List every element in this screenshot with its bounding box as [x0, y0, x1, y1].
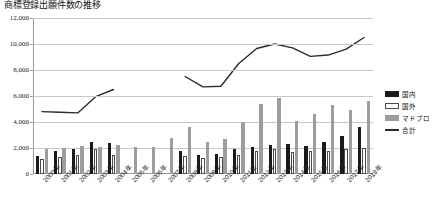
- y-axis-tick-label: 0: [26, 170, 30, 178]
- legend-label: 国内: [402, 89, 416, 99]
- bar-group: [105, 18, 123, 174]
- bar-group: [337, 18, 355, 174]
- y-axis-labels: 02,0004,0006,0008,00010,00012,000: [0, 18, 31, 174]
- bar-group: [51, 18, 69, 174]
- legend-swatch-line: [385, 127, 399, 133]
- bar-group: [355, 18, 373, 174]
- bar-group: [176, 18, 194, 174]
- legend-swatch-gray: [385, 115, 399, 121]
- legend-item[interactable]: 国外: [385, 100, 441, 112]
- bar-group: [212, 18, 230, 174]
- bar-マドプロ: [331, 105, 334, 174]
- bar-group: [33, 18, 51, 174]
- bar-group: [284, 18, 302, 174]
- bar-group: [140, 18, 158, 174]
- bar-group: [158, 18, 176, 174]
- bar-マドプロ: [349, 110, 352, 174]
- bar-group: [266, 18, 284, 174]
- bar-group: [194, 18, 212, 174]
- bar-group: [122, 18, 140, 174]
- bar-国外: [40, 159, 43, 174]
- bar-マドプロ: [259, 104, 262, 174]
- bar-group: [87, 18, 105, 174]
- bar-group: [319, 18, 337, 174]
- x-axis-labels: 2000年2001年2002年2003年2004年2005年2006年2007年…: [33, 175, 373, 215]
- y-axis-tick-label: 8,000: [13, 66, 29, 74]
- chart-legend: 国内国外マドプロ合計: [385, 88, 441, 136]
- legend-item[interactable]: 合計: [385, 124, 441, 136]
- bar-マドプロ: [277, 98, 280, 174]
- legend-item[interactable]: マドプロ: [385, 112, 441, 124]
- legend-swatch-white: [385, 103, 399, 109]
- bar-マドプロ: [367, 101, 370, 174]
- bar-マドプロ: [295, 121, 298, 174]
- bar-group: [301, 18, 319, 174]
- bar-マドプロ: [313, 114, 316, 174]
- legend-label: 国外: [402, 101, 416, 111]
- bar-マドプロ: [241, 122, 244, 174]
- y-axis-tick-label: 12,000: [10, 14, 29, 22]
- bar-group: [69, 18, 87, 174]
- bar-マドプロ: [188, 127, 191, 174]
- legend-label: マドプロ: [402, 113, 430, 123]
- bar-国内: [36, 156, 39, 174]
- y-axis-tick-label: 6,000: [13, 92, 29, 100]
- legend-swatch-black: [385, 91, 399, 97]
- chart-container: 商標登録出願件数の推移 02,0004,0006,0008,00010,0001…: [0, 0, 442, 215]
- y-axis-tick-label: 4,000: [13, 118, 29, 126]
- legend-label: 合計: [402, 125, 416, 135]
- chart-title: 商標登録出願件数の推移: [4, 0, 101, 11]
- legend-item[interactable]: 国内: [385, 88, 441, 100]
- y-axis-tick-label: 2,000: [13, 144, 29, 152]
- bar-group: [230, 18, 248, 174]
- y-axis-tick-label: 10,000: [10, 40, 29, 48]
- bar-group: [248, 18, 266, 174]
- plot-area: [33, 18, 373, 174]
